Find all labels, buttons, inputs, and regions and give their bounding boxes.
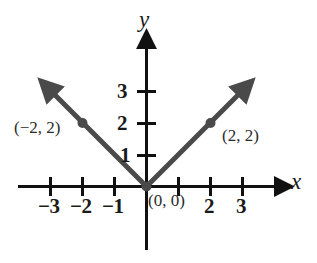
x-tick-label-3: 3 bbox=[236, 196, 246, 217]
x-axis-label: x bbox=[291, 170, 301, 193]
data-point-origin bbox=[142, 182, 152, 192]
curve-left-branch bbox=[52, 92, 147, 187]
data-point-right bbox=[206, 118, 216, 128]
x-tick-label-neg3: −3 bbox=[38, 196, 59, 217]
point-label-right: (2, 2) bbox=[222, 127, 259, 144]
point-label-left: (−2, 2) bbox=[14, 119, 60, 136]
y-tick-label-3: 3 bbox=[117, 81, 127, 102]
x-tick-label-neg1: −1 bbox=[102, 196, 123, 217]
x-tick-label-2: 2 bbox=[204, 196, 214, 217]
data-point-left bbox=[78, 118, 88, 128]
y-axis-label: y bbox=[139, 8, 149, 31]
point-label-origin: (0, 0) bbox=[148, 192, 185, 209]
absolute-value-graph-figure: y x −3 −2 −1 2 3 3 2 1 (−2, 2) (0, 0) (2… bbox=[0, 0, 317, 263]
x-tick-label-neg2: −2 bbox=[70, 196, 91, 217]
y-tick-label-2: 2 bbox=[117, 113, 127, 134]
y-tick-label-1: 1 bbox=[120, 145, 130, 166]
